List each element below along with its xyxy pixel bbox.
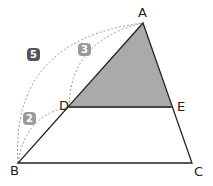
point-label-D: D <box>59 99 69 112</box>
point-label-E: E <box>177 100 185 113</box>
length-badge-3: 3 <box>78 43 91 56</box>
shaded-triangle-ADE <box>69 23 172 107</box>
length-badge-5: 5 <box>27 48 40 61</box>
point-label-C: C <box>194 165 203 178</box>
diagram-canvas: A B C D E 5 3 2 <box>0 0 213 186</box>
length-badge-2: 2 <box>23 112 36 125</box>
point-label-B: B <box>10 164 19 177</box>
triangle-figure <box>0 0 213 186</box>
point-label-A: A <box>138 6 147 19</box>
